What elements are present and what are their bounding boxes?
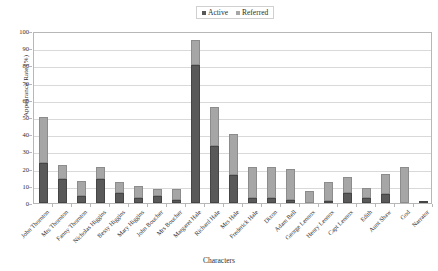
x-tick-label: Edith xyxy=(359,209,373,223)
y-tick-mark xyxy=(29,187,32,188)
x-tick-mark xyxy=(52,204,53,207)
y-tick-mark xyxy=(29,118,32,119)
bar-segment-active xyxy=(229,175,238,203)
bar-group xyxy=(153,189,162,203)
x-tick-mark xyxy=(109,204,110,207)
bar-segment-referred xyxy=(229,134,238,175)
bar-group xyxy=(343,177,352,203)
y-tick-mark xyxy=(29,66,32,67)
bar-group xyxy=(324,182,333,203)
bar-group xyxy=(77,181,86,203)
bar-group xyxy=(229,134,238,203)
x-tick-mark xyxy=(71,204,72,207)
y-tick-label: 20 xyxy=(3,166,29,173)
bar-group xyxy=(96,167,105,203)
y-tick-mark xyxy=(29,49,32,50)
legend-label-active: Active xyxy=(208,9,228,17)
bar-segment-referred xyxy=(115,182,124,192)
bar-segment-referred xyxy=(77,181,86,196)
x-tick-mark xyxy=(413,204,414,207)
bar-segment-referred xyxy=(324,182,333,201)
y-tick-mark xyxy=(29,204,32,205)
y-tick-mark xyxy=(29,32,32,33)
bar-segment-active xyxy=(286,200,295,203)
bar-group xyxy=(381,174,390,203)
bar-segment-active xyxy=(267,198,276,203)
bar-group xyxy=(115,182,124,203)
bar-segment-referred xyxy=(58,165,67,179)
y-tick-mark xyxy=(29,152,32,153)
legend-swatch-referred xyxy=(236,11,240,15)
legend-entry-active: Active xyxy=(202,9,228,17)
bar-group xyxy=(39,117,48,203)
y-tick-mark xyxy=(29,135,32,136)
bar-segment-active xyxy=(248,198,257,203)
bar-segment-active xyxy=(191,65,200,203)
x-tick-mark xyxy=(261,204,262,207)
y-tick-mark xyxy=(29,101,32,102)
y-tick-label: 60 xyxy=(3,98,29,105)
x-tick-label: Narrator xyxy=(410,209,430,229)
y-tick-label: 0 xyxy=(3,201,29,208)
bar-segment-active xyxy=(343,193,352,203)
bar-group xyxy=(286,169,295,203)
bar-segment-referred xyxy=(381,174,390,195)
bar-segment-referred xyxy=(172,189,181,199)
plot-area xyxy=(33,32,432,204)
legend-swatch-active xyxy=(202,11,206,15)
bar-segment-active xyxy=(96,179,105,203)
x-tick-mark xyxy=(223,204,224,207)
bar-group xyxy=(267,167,276,203)
x-tick-label: Dixon xyxy=(262,209,278,225)
y-tick-label: 90 xyxy=(3,46,29,53)
bar-segment-active xyxy=(58,179,67,203)
x-tick-mark xyxy=(337,204,338,207)
x-tick-mark xyxy=(280,204,281,207)
y-tick-mark xyxy=(29,170,32,171)
bar-segment-referred xyxy=(305,191,314,203)
bar-group xyxy=(419,201,428,203)
bar-segment-active xyxy=(381,194,390,203)
x-tick-mark xyxy=(432,204,433,207)
y-tick-mark xyxy=(29,84,32,85)
bar-segment-referred xyxy=(191,40,200,66)
bar-group xyxy=(400,167,409,203)
y-tick-label: 40 xyxy=(3,132,29,139)
legend-entry-referred: Referred xyxy=(236,9,268,17)
y-tick-label: 100 xyxy=(3,29,29,36)
bar-segment-referred xyxy=(134,186,143,198)
bar-group xyxy=(134,186,143,203)
appearance-rate-bar-chart: Active Referred Appearance Rate (%) 0102… xyxy=(0,0,438,271)
bar-segment-referred xyxy=(96,167,105,179)
bar-segment-referred xyxy=(153,189,162,196)
x-tick-mark xyxy=(299,204,300,207)
x-tick-label: God xyxy=(399,209,411,221)
bar-segment-referred xyxy=(267,167,276,198)
x-axis-title: Characters xyxy=(0,256,438,265)
bar-group xyxy=(248,167,257,203)
x-tick-mark xyxy=(394,204,395,207)
bar-segment-active xyxy=(324,201,333,203)
bar-segment-referred xyxy=(362,188,371,198)
x-tick-mark xyxy=(128,204,129,207)
y-tick-label: 10 xyxy=(3,184,29,191)
bar-segment-active xyxy=(39,163,48,203)
bar-group xyxy=(362,188,371,203)
bar-segment-active xyxy=(419,201,428,203)
x-tick-mark xyxy=(375,204,376,207)
x-tick-mark xyxy=(242,204,243,207)
bar-segment-active xyxy=(77,196,86,203)
x-tick-mark xyxy=(356,204,357,207)
bars-layer xyxy=(34,33,431,203)
bar-group xyxy=(191,40,200,203)
bar-group xyxy=(305,191,314,203)
chart-legend: Active Referred xyxy=(196,6,274,19)
bar-segment-active xyxy=(134,198,143,203)
y-tick-label: 50 xyxy=(3,115,29,122)
bar-segment-referred xyxy=(343,177,352,192)
x-tick-mark xyxy=(147,204,148,207)
x-tick-mark xyxy=(166,204,167,207)
bar-segment-referred xyxy=(39,117,48,163)
legend-label-referred: Referred xyxy=(242,9,268,17)
y-tick-label: 70 xyxy=(3,80,29,87)
